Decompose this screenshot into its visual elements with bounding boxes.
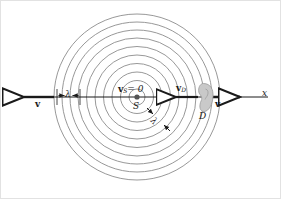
wavelength-label-horizontal: λ (65, 90, 71, 99)
figure-canvas (0, 0, 281, 199)
source-velocity-label: vS= 0 (118, 85, 144, 94)
detector-velocity-subscript: D (181, 86, 186, 93)
source-label: S (133, 102, 139, 111)
detector-label: D (199, 112, 206, 121)
x-axis-label: x (262, 89, 267, 98)
wave-speed-label-right: v (215, 100, 220, 109)
wave-speed-label-left: v (35, 100, 40, 109)
detector-velocity-label: vD (176, 84, 186, 93)
source-velocity-value: = 0 (127, 84, 143, 94)
doppler-effect-figure: vS= 0 S vD D v v x λ λ (0, 0, 281, 199)
source-point (134, 94, 139, 99)
